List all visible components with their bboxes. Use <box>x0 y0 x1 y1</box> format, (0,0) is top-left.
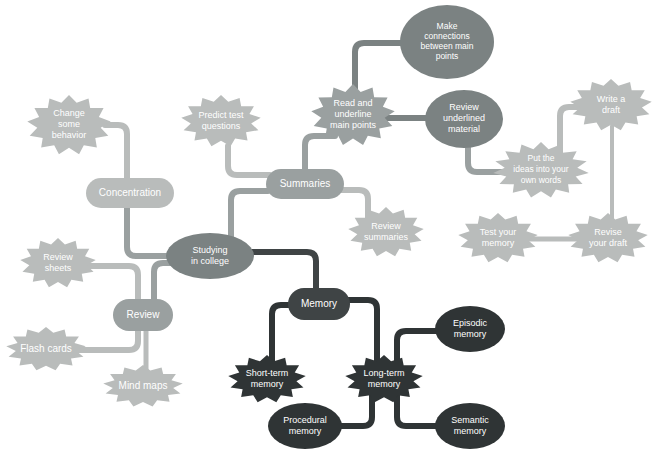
node-revise-your-draft[interactable]: Reviseyour draft <box>568 213 647 262</box>
edge-memory-to-short-term-memory <box>272 305 292 364</box>
node-change-some-behavior[interactable]: Changesomebehavior <box>27 95 110 154</box>
node-review-summaries[interactable]: Reviewsummaries <box>348 207 423 256</box>
node-studying-in-college[interactable]: Studyingin college <box>166 233 254 279</box>
short-term-memory-shape[interactable] <box>228 355 305 402</box>
node-predict-test-questions[interactable]: Predict testquestions <box>181 95 260 146</box>
node-short-term-memory[interactable]: Short-termmemory <box>228 355 305 402</box>
edge-summaries-to-read-and-underline-main-points <box>305 136 335 172</box>
node-episodic-memory[interactable]: Episodicmemory <box>435 306 505 352</box>
edge-predict-test-questions-to-summaries <box>228 146 270 175</box>
edge-long-term-memory-to-semantic-memory <box>397 392 438 426</box>
edge-review-underlined-material-to-put-the-ideas-into-your-own-words <box>468 147 505 172</box>
edge-summaries-to-review-summaries <box>336 190 368 218</box>
test-your-memory-shape[interactable] <box>458 213 537 262</box>
node-procedural-memory[interactable]: Proceduralmemory <box>268 403 342 449</box>
node-write-a-draft[interactable]: Write adraft <box>570 79 651 130</box>
edge-studying-in-college-to-review <box>154 263 176 300</box>
node-put-the-ideas-into-your-own-words[interactable]: Put theideas into yourown words <box>493 142 588 197</box>
make-connections-between-main-points-shape[interactable] <box>400 5 494 79</box>
revise-your-draft-shape[interactable] <box>568 213 647 262</box>
node-make-connections-between-main-points[interactable]: Makeconnectionsbetween mainpoints <box>400 5 494 79</box>
summaries-shape[interactable] <box>266 169 344 199</box>
change-some-behavior-shape[interactable] <box>27 95 110 154</box>
edge-flash-cards-to-review <box>76 330 138 350</box>
node-long-term-memory[interactable]: Long-termmemory <box>345 355 422 402</box>
memory-shape[interactable] <box>288 288 350 320</box>
procedural-memory-shape[interactable] <box>268 403 342 449</box>
edge-studying-in-college-to-memory <box>250 252 316 289</box>
write-a-draft-shape[interactable] <box>570 79 651 130</box>
node-concentration[interactable]: Concentration <box>86 178 174 208</box>
node-review[interactable]: Review <box>113 299 173 331</box>
long-term-memory-shape[interactable] <box>345 355 422 402</box>
review-underlined-material-shape[interactable] <box>425 90 503 148</box>
node-mind-maps[interactable]: Mind maps <box>103 365 182 406</box>
nodes-layer: Studyingin collegeConcentrationChangesom… <box>6 5 651 449</box>
predict-test-questions-shape[interactable] <box>181 95 260 146</box>
studying-in-college-shape[interactable] <box>166 233 254 279</box>
concentration-shape[interactable] <box>86 178 174 208</box>
review-sheets-shape[interactable] <box>20 238 95 287</box>
node-review-underlined-material[interactable]: Reviewunderlinedmaterial <box>425 90 503 148</box>
mind-maps-shape[interactable] <box>103 365 182 406</box>
put-the-ideas-into-your-own-words-shape[interactable] <box>493 142 588 197</box>
edge-long-term-memory-to-procedural-memory <box>337 392 372 426</box>
mindmap-canvas: Studyingin collegeConcentrationChangesom… <box>0 0 659 461</box>
node-flash-cards[interactable]: Flash cards <box>6 327 85 370</box>
node-memory[interactable]: Memory <box>288 288 350 320</box>
node-semantic-memory[interactable]: Semanticmemory <box>435 403 505 449</box>
semantic-memory-shape[interactable] <box>435 403 505 449</box>
review-shape[interactable] <box>113 299 173 331</box>
edge-memory-to-long-term-memory <box>347 300 377 364</box>
flash-cards-shape[interactable] <box>6 327 85 370</box>
mindmap-svg: Studyingin collegeConcentrationChangesom… <box>0 0 659 461</box>
node-summaries[interactable]: Summaries <box>266 169 344 199</box>
episodic-memory-shape[interactable] <box>435 306 505 352</box>
node-test-your-memory[interactable]: Test yourmemory <box>458 213 537 262</box>
review-summaries-shape[interactable] <box>348 207 423 256</box>
node-review-sheets[interactable]: Reviewsheets <box>20 238 95 287</box>
